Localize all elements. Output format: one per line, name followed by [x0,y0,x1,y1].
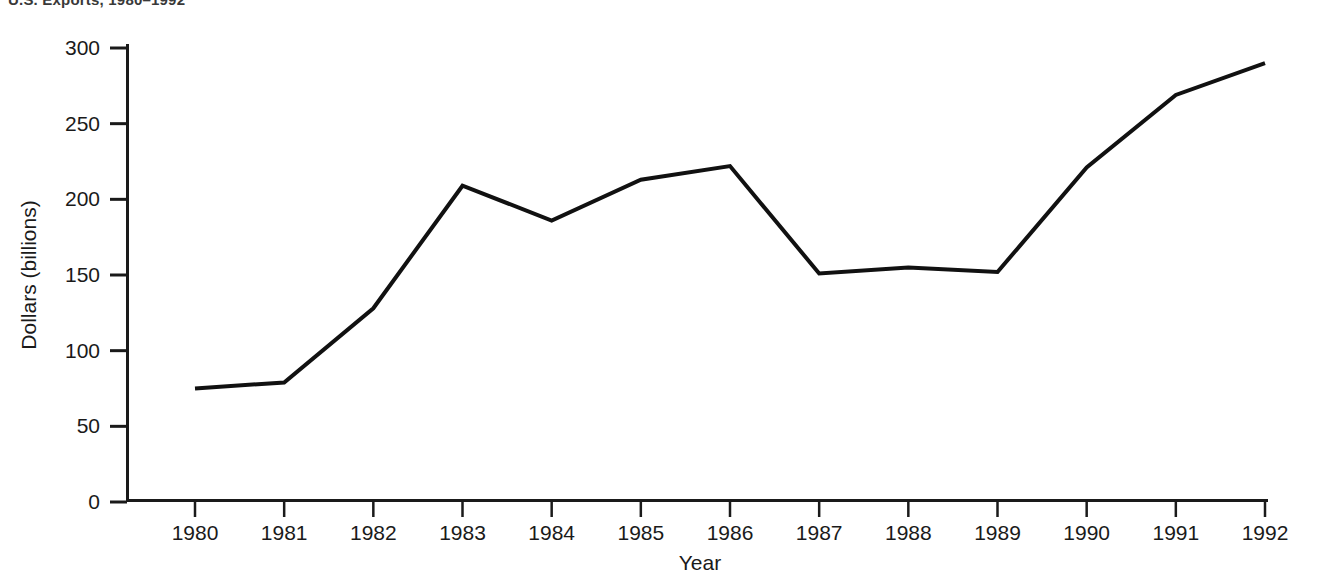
y-axis-tick-labels: 050100150200250300 [65,36,100,513]
y-axis-ticks [110,48,127,502]
x-axis-ticks [195,500,1265,517]
x-axis-tick-label: 1983 [439,521,486,544]
x-axis-title: Year [679,551,721,574]
x-axis-tick-label: 1991 [1152,521,1199,544]
y-axis-tick-label: 150 [65,263,100,286]
line-chart-plot: 050100150200250300 198019811982198319841… [0,0,1336,585]
x-axis-tick-label: 1985 [617,521,664,544]
x-axis-tick-label: 1992 [1242,521,1289,544]
y-axis-tick-label: 300 [65,36,100,59]
y-axis-title: Dollars (billions) [17,200,40,349]
chart-figure: U.S. Exports, 1980–1992 0501001502002503… [0,0,1336,585]
x-axis-tick-labels: 1980198119821983198419851986198719881989… [172,521,1289,544]
x-axis-tick-label: 1980 [172,521,219,544]
y-axis-tick-label: 250 [65,112,100,135]
y-axis-tick-label: 0 [88,490,100,513]
y-axis-tick-label: 100 [65,339,100,362]
data-series-line [195,63,1265,388]
x-axis-tick-label: 1989 [974,521,1021,544]
x-axis-tick-label: 1987 [796,521,843,544]
x-axis-tick-label: 1990 [1063,521,1110,544]
x-axis-tick-label: 1988 [885,521,932,544]
x-axis-tick-label: 1982 [350,521,397,544]
y-axis-tick-label: 50 [77,414,100,437]
x-axis-tick-label: 1984 [528,521,575,544]
y-axis-tick-label: 200 [65,187,100,210]
x-axis-tick-label: 1981 [261,521,308,544]
x-axis-tick-label: 1986 [707,521,754,544]
